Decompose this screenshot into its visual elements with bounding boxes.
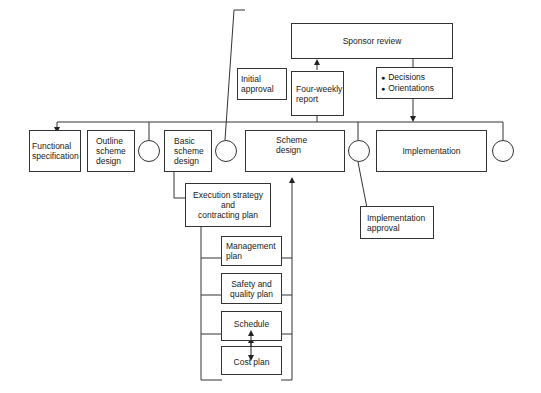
- outline-scheme-design-box: Outline scheme design: [87, 130, 135, 172]
- implementation-box: Implementation: [376, 130, 487, 172]
- initial-approval-box: Initial approval: [237, 68, 287, 100]
- schedule-label: Schedule: [234, 319, 269, 329]
- sponsor-review-box: Sponsor review: [291, 23, 453, 59]
- decisions-list: Decisions Orientations: [381, 72, 434, 94]
- functional-specification-box: Functional specification: [29, 130, 81, 172]
- implementation-approval-box: Implementation approval: [360, 206, 434, 239]
- management-plan-label: Management plan: [226, 241, 276, 261]
- decisions-orientations-box: Decisions Orientations: [376, 67, 453, 99]
- cost-plan-box: Cost plan: [221, 346, 282, 375]
- orientations-item: Orientations: [381, 83, 434, 94]
- sponsor-review-label: Sponsor review: [343, 36, 402, 46]
- initial-approval-label: Initial approval: [241, 74, 286, 94]
- milestone-circle-1: [138, 140, 160, 162]
- four-weekly-report-label: Four-weekly report: [296, 84, 342, 104]
- scheme-design-box: Scheme design: [245, 130, 345, 172]
- cost-plan-label: Cost plan: [234, 357, 270, 367]
- scheme-design-label: Scheme design: [276, 135, 307, 155]
- basic-scheme-design-box: Basic scheme design: [164, 130, 212, 172]
- milestone-circle-2: [215, 140, 237, 162]
- management-plan-box: Management plan: [221, 236, 282, 266]
- decisions-item: Decisions: [381, 72, 434, 83]
- schedule-box: Schedule: [221, 311, 282, 341]
- outline-scheme-design-label: Outline scheme design: [96, 136, 126, 166]
- safety-quality-plan-box: Safety and quality plan: [221, 273, 282, 304]
- safety-quality-plan-label: Safety and quality plan: [230, 279, 273, 299]
- four-weekly-report-box: Four-weekly report: [291, 71, 344, 116]
- milestone-circle-4: [492, 140, 514, 162]
- milestone-circle-3: [348, 140, 370, 162]
- execution-strategy-label: Execution strategy and contracting plan: [193, 190, 263, 220]
- implementation-label: Implementation: [402, 146, 460, 156]
- execution-strategy-box: Execution strategy and contracting plan: [185, 183, 271, 227]
- implementation-approval-label: Implementation approval: [367, 213, 425, 233]
- basic-scheme-design-label: Basic scheme design: [174, 136, 204, 166]
- functional-specification-label: Functional specification: [32, 141, 79, 161]
